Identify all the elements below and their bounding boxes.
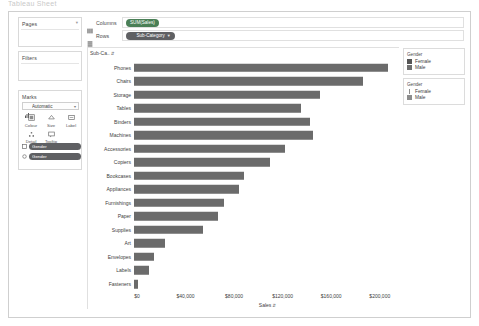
marks-pill-label: Gender [32, 144, 47, 149]
bar-mark[interactable] [134, 280, 138, 289]
chevron-down-icon[interactable]: ▼ [167, 33, 171, 38]
bar-track [134, 88, 400, 102]
bar-mark[interactable] [134, 91, 320, 100]
bar-mark[interactable] [134, 212, 218, 221]
pages-card[interactable]: Pages ▾ [18, 17, 82, 47]
marks-button-size[interactable]: Size [41, 113, 61, 128]
marks-pill-size[interactable]: Gender [29, 153, 81, 160]
chevron-down-icon[interactable]: ▾ [74, 104, 76, 109]
detail-icon [27, 130, 36, 139]
marks-pill-row-colour: Gender [21, 143, 81, 150]
legend-item[interactable]: Female [407, 89, 461, 94]
row-axis-header[interactable]: Sub-Ca..⇵ [90, 50, 115, 56]
bar-track [134, 264, 400, 278]
rows-shelf-dropzone[interactable]: Sub-Category ▼ [122, 30, 464, 41]
left-panel: Pages ▾ Filters Marks Automatic ▾ [18, 17, 82, 307]
bar-row: Phones [88, 61, 400, 75]
bar-row: Furnishings [88, 196, 400, 210]
bar-row-label[interactable]: Storage [88, 92, 134, 98]
sort-icon[interactable]: ⇵ [272, 303, 276, 308]
legend-size-glyph [409, 89, 411, 94]
pages-drop-area[interactable] [21, 29, 79, 44]
bar-mark[interactable] [134, 253, 154, 262]
bar-row-label[interactable]: Chairs [88, 78, 134, 84]
bar-mark[interactable] [134, 172, 244, 181]
columns-shelf-dropzone[interactable]: SUM(Sales) [122, 17, 464, 28]
columns-shelf-label: Columns [96, 20, 122, 26]
bar-row-label[interactable]: Phones [88, 65, 134, 71]
bar-row-label[interactable]: Tables [88, 105, 134, 111]
bar-mark[interactable] [134, 145, 285, 154]
filters-drop-area[interactable] [21, 63, 79, 78]
marks-card: Marks Automatic ▾ Colour [18, 90, 82, 170]
color-icon [21, 144, 27, 150]
x-axis: Sales⇵ $0$40,000$80,000$120,000$160,000$… [137, 293, 398, 309]
bar-chart-icon [25, 104, 30, 109]
bar-row-label[interactable]: Paper [88, 213, 134, 219]
bar-row-label[interactable]: Accessories [88, 146, 134, 152]
marks-pill-colour[interactable]: Gender [29, 143, 81, 150]
bar-mark[interactable] [134, 118, 310, 127]
legend-item-label: Male [415, 95, 425, 100]
label-icon [67, 113, 76, 122]
bar-row-label[interactable]: Envelopes [88, 254, 134, 260]
bar-row-label[interactable]: Binders [88, 119, 134, 125]
marks-pills: Gender Gender [21, 143, 81, 162]
bar-row-label[interactable]: Labels [88, 267, 134, 273]
bar-track [134, 142, 400, 156]
marks-buttons: Colour Size Label [21, 113, 81, 146]
bar-mark[interactable] [134, 131, 313, 140]
marks-button-detail[interactable]: Detail [21, 130, 41, 145]
bar-row-label[interactable]: Furnishings [88, 200, 134, 206]
columns-pill-sum-sales[interactable]: SUM(Sales) [126, 19, 159, 27]
tooltip-icon [47, 130, 56, 139]
rows-pill-sub-category[interactable]: Sub-Category ▼ [126, 32, 175, 40]
bar-row-label[interactable]: Bookcases [88, 173, 134, 179]
marks-button-label[interactable]: Label [61, 113, 81, 128]
bar-mark[interactable] [134, 266, 149, 275]
bar-track [134, 223, 400, 237]
bar-mark[interactable] [134, 199, 224, 208]
x-axis-title: Sales⇵ [137, 302, 398, 308]
pages-card-title: Pages [19, 18, 81, 27]
legend-item[interactable]: Female [407, 59, 461, 64]
bar-mark[interactable] [134, 226, 203, 235]
plot-region: PhonesChairsStorageTablesBindersMachines… [88, 61, 400, 291]
legend-title: Gender [407, 52, 461, 57]
legend-color-swatch [407, 59, 412, 64]
marks-button-colour[interactable]: Colour [21, 113, 41, 128]
rows-shelf-label: Rows [96, 33, 122, 39]
legend-item[interactable]: Male [407, 95, 461, 100]
bar-row-label[interactable]: Art [88, 240, 134, 246]
bar-row: Paper [88, 210, 400, 224]
bar-mark[interactable] [134, 185, 239, 194]
x-axis-tick-label: $120,000 [272, 293, 293, 299]
bar-track [134, 61, 400, 75]
legend-item[interactable]: Male [407, 65, 461, 70]
sort-icon[interactable]: ⇵ [111, 51, 115, 56]
bar-row-label[interactable]: Machines [88, 132, 134, 138]
filters-card[interactable]: Filters [18, 51, 82, 81]
mark-type-dropdown[interactable]: Automatic ▾ [22, 102, 79, 110]
columns-shelf[interactable]: Columns SUM(Sales) [87, 17, 464, 28]
rows-shelf[interactable]: Rows Sub-Category ▼ [87, 30, 464, 41]
legend-size-swatch [407, 95, 412, 100]
bar-row-label[interactable]: Copiers [88, 159, 134, 165]
bar-mark[interactable] [134, 104, 301, 113]
bar-mark[interactable] [134, 64, 388, 73]
bar-track [134, 156, 400, 170]
bar-row-label[interactable]: Fasteners [88, 281, 134, 287]
bar-mark[interactable] [134, 77, 363, 86]
bar-mark[interactable] [134, 158, 270, 167]
bar-mark[interactable] [134, 239, 165, 248]
worksheet-window: Pages ▾ Filters Marks Automatic ▾ [8, 11, 471, 318]
bar-track [134, 115, 400, 129]
bar-row-label[interactable]: Appliances [88, 186, 134, 192]
marks-button-tooltip[interactable]: Tooltip [41, 130, 61, 145]
legend-size-glyph [407, 95, 412, 100]
chevron-down-icon[interactable]: ▾ [76, 21, 78, 26]
bar-row-label[interactable]: Supplies [88, 227, 134, 233]
size-icon [47, 113, 56, 122]
x-axis-tick-label: $0 [134, 293, 140, 299]
x-axis-tick-label: $80,000 [225, 293, 243, 299]
